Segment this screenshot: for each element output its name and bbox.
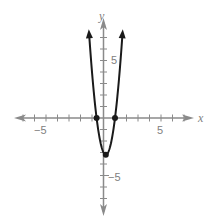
x-axis-label: x bbox=[197, 111, 204, 125]
graph: x y −5 5 5 −5 bbox=[0, 0, 213, 221]
y-tick-label-neg5: −5 bbox=[108, 171, 121, 183]
x-tick-label-pos5: 5 bbox=[157, 124, 163, 136]
y-tick-label-pos5: 5 bbox=[111, 54, 117, 66]
x-tick-label-neg5: −5 bbox=[34, 124, 47, 136]
marked-point bbox=[112, 115, 118, 121]
marked-point bbox=[103, 152, 109, 158]
marked-point bbox=[94, 115, 100, 121]
axes bbox=[14, 18, 194, 216]
curve-left-arrow-icon bbox=[86, 29, 93, 38]
y-axis-label: y bbox=[98, 9, 105, 23]
curve-right-arrow-icon bbox=[119, 29, 126, 38]
